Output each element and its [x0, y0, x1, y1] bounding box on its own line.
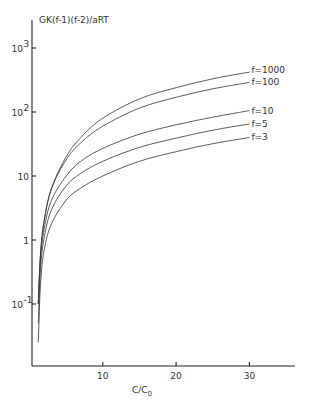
- y-tick-label: 10: [12, 108, 24, 118]
- chart: GK(f-1)(f-2)/aRT 10-1110102103 102030 C/…: [0, 0, 309, 401]
- y-tick-exponent: 3: [24, 39, 30, 49]
- y-tick-label: 10: [12, 300, 24, 310]
- y-tick-label: 1: [23, 236, 29, 246]
- legend-label: f=100: [251, 77, 279, 87]
- y-tick-label: 10: [18, 172, 30, 182]
- series-line-f-10: [38, 111, 249, 304]
- x-ticks: 102030: [97, 362, 255, 381]
- x-tick-label: 20: [170, 371, 182, 381]
- y-axis-label: GK(f-1)(f-2)/aRT: [39, 15, 109, 25]
- y-tick-exponent: -1: [24, 295, 33, 305]
- series-line-f-100: [38, 82, 249, 304]
- legend-label: f=10: [251, 106, 273, 116]
- series-curves: [38, 72, 249, 342]
- x-tick-label: 30: [244, 371, 256, 381]
- x-tick-label: 10: [97, 371, 109, 381]
- y-tick-label: 10: [12, 44, 24, 54]
- y-tick-exponent: 2: [24, 103, 30, 113]
- legend-label: f=3: [251, 132, 267, 142]
- legend-label: f=5: [251, 119, 267, 129]
- legend-label: f=1000: [251, 65, 285, 75]
- inline-legend: f=1000f=100f=10f=5f=3: [251, 65, 285, 142]
- series-line-f-3: [38, 138, 249, 343]
- x-axis-label: C/C0: [132, 385, 152, 398]
